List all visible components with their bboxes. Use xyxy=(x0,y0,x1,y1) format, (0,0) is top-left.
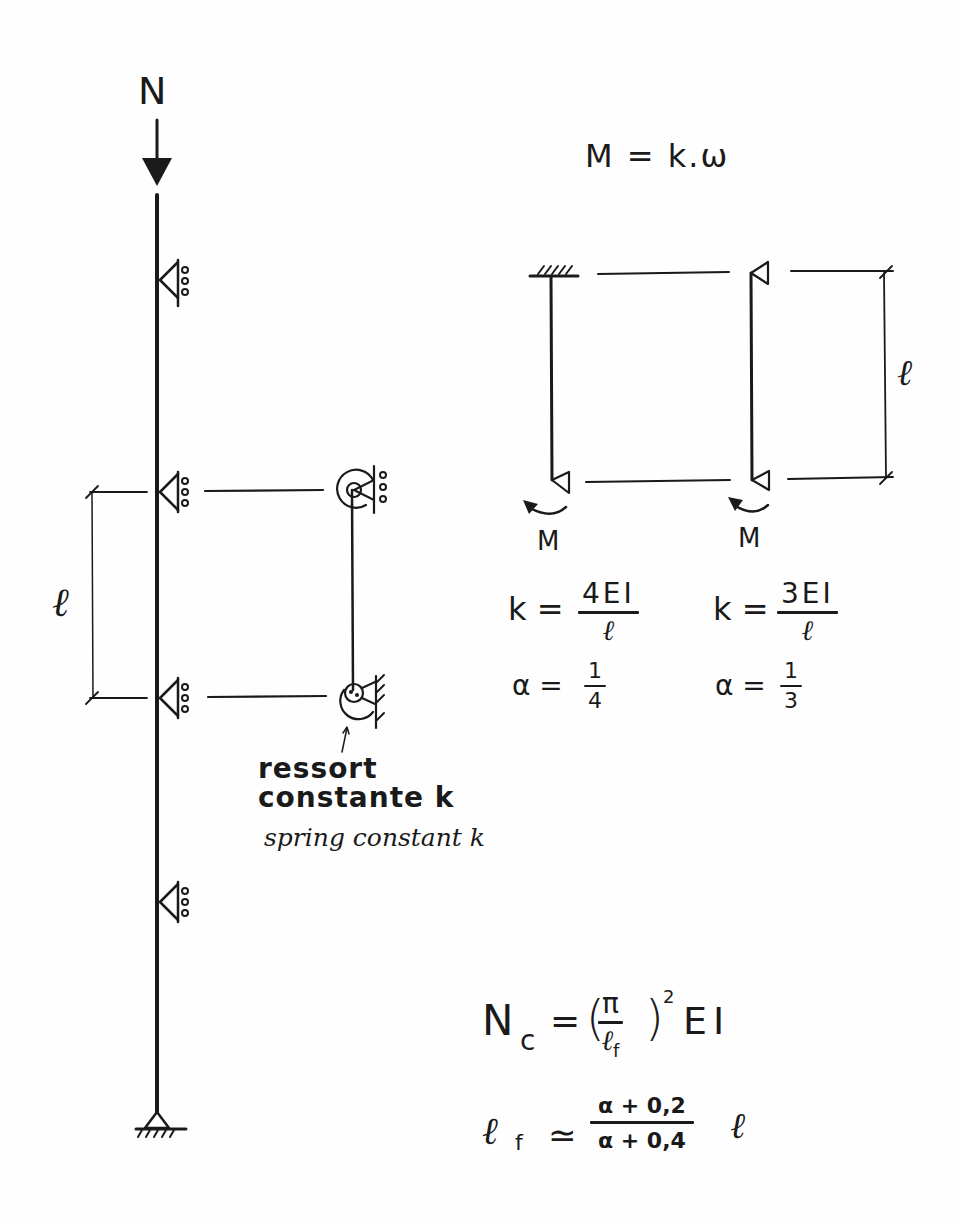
critical-load-fraction: π ℓf xyxy=(598,990,623,1060)
roller-support-3 xyxy=(160,678,188,718)
roller-support-4 xyxy=(160,882,188,922)
spring-label-en: spring constant k xyxy=(264,825,485,850)
moment-label-1: M xyxy=(537,528,559,554)
stiffness-pinned-fraction: 3EI ℓ xyxy=(777,580,838,645)
critical-load-symbol: N xyxy=(482,1000,513,1042)
pi-symbol: π xyxy=(598,990,623,1021)
connecting-beam-bottom xyxy=(208,696,326,697)
alpha-fixed-fraction: 1 4 xyxy=(584,660,606,712)
stiffness-pinned-denominator: ℓ xyxy=(802,614,814,645)
span-label-left: ℓ xyxy=(52,582,69,622)
buckling-length-numerator: α + 0,2 xyxy=(590,1095,694,1121)
spring-label-fr-2: constante k xyxy=(258,784,454,812)
roller-support-1 xyxy=(160,260,188,306)
exponent: 2 xyxy=(663,988,674,1006)
spring-label-fr-1: ressort xyxy=(258,755,378,783)
buckling-length-rhs: ℓ xyxy=(730,1108,745,1144)
critical-load-subscript: c xyxy=(520,1027,535,1055)
moment-arrow-2 xyxy=(728,497,768,512)
diagram-canvas: N ℓ ressort constante k spring constant … xyxy=(0,0,961,1219)
stiffness-pinned-lhs: k = xyxy=(713,593,769,625)
rotational-spring-bottom xyxy=(340,675,384,728)
buckling-length-fraction: α + 0,2 α + 0,4 xyxy=(590,1095,694,1152)
alpha-pinned-numerator: 1 xyxy=(780,660,802,685)
approx-equals: ≃ xyxy=(548,1118,577,1152)
alpha-pinned-lhs: α = xyxy=(715,672,766,700)
stiffness-pinned-numerator: 3EI xyxy=(777,580,838,611)
buckling-length-lhs: ℓ xyxy=(482,1112,498,1150)
alpha-fixed-lhs: α = xyxy=(512,672,563,700)
buckling-length-symbol: ℓf xyxy=(601,1024,619,1060)
moment-relation: M = k.ω xyxy=(585,140,729,172)
stiffness-fixed-fraction: 4EI ℓ xyxy=(578,580,639,645)
span-label-right: ℓ xyxy=(897,355,912,391)
spring-member xyxy=(352,490,353,690)
alpha-fixed-numerator: 1 xyxy=(584,660,606,685)
fixed-end-case xyxy=(530,266,730,493)
axial-load-arrow xyxy=(142,120,172,186)
span-dimension-left xyxy=(86,486,147,704)
alpha-pinned-fraction: 1 3 xyxy=(780,660,802,712)
buckling-length-l: ℓ xyxy=(601,1024,613,1057)
roller-support-2 xyxy=(160,472,188,512)
flexural-rigidity: EI xyxy=(683,1002,730,1040)
alpha-pinned-denominator: 3 xyxy=(784,687,798,712)
critical-load-equals: = xyxy=(550,1003,580,1039)
stiffness-fixed-lhs: k = xyxy=(508,593,564,625)
rotational-spring-top xyxy=(337,466,386,513)
axial-load-label: N xyxy=(138,72,166,110)
moment-label-2: M xyxy=(738,525,760,551)
moment-arrow-1 xyxy=(523,500,566,514)
buckling-length-denominator: α + 0,4 xyxy=(598,1124,686,1152)
alpha-fixed-denominator: 4 xyxy=(588,687,602,712)
stiffness-fixed-numerator: 4EI xyxy=(578,580,639,611)
stiffness-fixed-denominator: ℓ xyxy=(603,614,615,645)
pinned-end-case xyxy=(751,262,893,490)
buckling-length-lhs-sub: f xyxy=(515,1132,523,1154)
buckling-length-sub: f xyxy=(613,1040,619,1061)
paren-close: ) xyxy=(645,994,664,1042)
pin-support-base xyxy=(136,1112,186,1137)
connecting-beam-top xyxy=(205,490,323,491)
